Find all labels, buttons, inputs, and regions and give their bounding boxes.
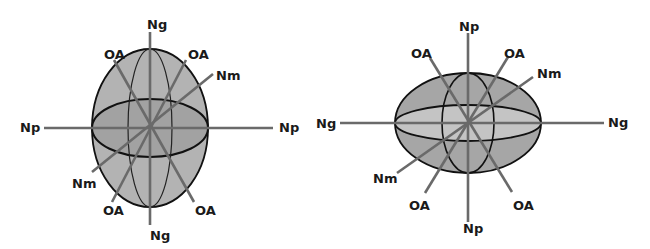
right-label-left: Ng bbox=[316, 116, 336, 131]
left-label-right: Np bbox=[279, 120, 299, 135]
left-label-oa-ul: OA bbox=[104, 47, 125, 62]
left-label-top: Ng bbox=[147, 17, 167, 32]
left-label-oa-ll: OA bbox=[103, 203, 124, 218]
right-label-right: Ng bbox=[608, 115, 628, 130]
right-label-nm-lower: Nm bbox=[373, 171, 397, 186]
right-label-oa-ll: OA bbox=[409, 198, 430, 213]
right-indicatrix: Np Np Ng Ng OA OA OA OA Nm Nm bbox=[316, 19, 628, 236]
left-label-oa-lr: OA bbox=[195, 203, 216, 218]
left-indicatrix: Ng Ng Np Np OA OA OA OA Nm Nm bbox=[20, 17, 299, 243]
right-label-oa-ur: OA bbox=[504, 46, 525, 61]
left-label-bottom: Ng bbox=[150, 228, 170, 243]
left-label-oa-ur: OA bbox=[188, 47, 209, 62]
left-label-nm-lower: Nm bbox=[72, 176, 96, 191]
left-label-left: Np bbox=[20, 120, 40, 135]
right-label-top: Np bbox=[459, 19, 479, 34]
right-label-oa-lr: OA bbox=[513, 198, 534, 213]
left-label-nm-upper: Nm bbox=[216, 68, 240, 83]
right-label-nm-upper: Nm bbox=[537, 66, 561, 81]
indicatrix-diagram: Ng Ng Np Np OA OA OA OA Nm Nm Np Np Ng N… bbox=[0, 0, 650, 249]
right-label-bottom: Np bbox=[463, 221, 483, 236]
right-label-oa-ul: OA bbox=[411, 46, 432, 61]
